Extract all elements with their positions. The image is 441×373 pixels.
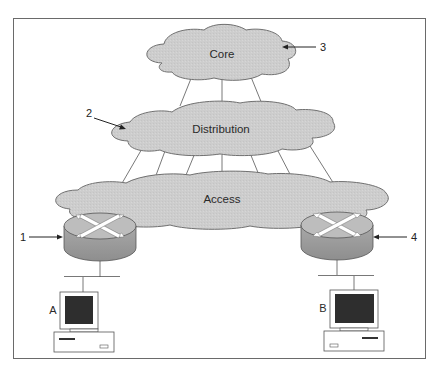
callout-4: 4 [373,231,417,243]
core-cloud: Core [147,24,296,80]
svg-text:1: 1 [20,231,26,243]
access-label: Access [203,193,240,205]
distribution-label: Distribution [192,123,250,135]
distribution-cloud: Distribution [112,101,335,156]
host-b-link [318,260,374,290]
host-b-screen [335,294,374,323]
host-a-link [64,261,120,292]
arrow-left-icon [373,235,379,240]
router-right [301,212,373,260]
host-a-label: A [49,304,57,316]
arrow-right-icon [57,235,63,240]
network-diagram: Core Distribution Access [0,0,441,373]
host-b-label: B [319,302,326,314]
svg-text:4: 4 [411,231,417,243]
svg-text:2: 2 [86,107,92,119]
router-left [64,213,136,261]
host-b: B [319,290,384,351]
core-label: Core [210,48,235,60]
host-a-screen [65,296,93,324]
host-a: A [49,292,114,352]
svg-text:3: 3 [320,41,326,53]
callout-1: 1 [20,231,63,243]
